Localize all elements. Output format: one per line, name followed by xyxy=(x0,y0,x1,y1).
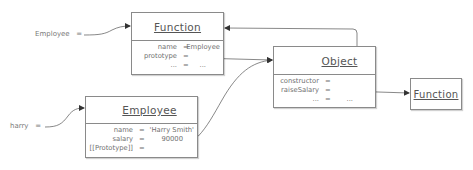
function-raisesalary-box[interactable]: Function xyxy=(410,78,462,110)
row-op: = xyxy=(183,52,189,60)
row-key: salary xyxy=(112,135,133,143)
row-op: = xyxy=(325,77,331,85)
row-value: 'Harry Smith' xyxy=(150,126,194,134)
row-op: = xyxy=(139,135,145,143)
variable-harry: harry = xyxy=(10,122,41,130)
employee-harry-box[interactable]: Employee name = 'Harry Smith' salary = 9… xyxy=(85,96,198,158)
row-key: [[Prototype]] xyxy=(90,144,133,152)
connector-arrows xyxy=(0,0,473,170)
box-title: Function xyxy=(154,21,201,33)
assign-op: = xyxy=(76,30,82,38)
box-title: Employee xyxy=(122,104,176,116)
box-rows: name = Employee prototype = ... = ... xyxy=(132,41,223,70)
row-prototype: prototype = xyxy=(132,52,223,61)
row-key: ... xyxy=(171,61,177,69)
box-header: Object xyxy=(274,47,375,75)
row-op: = xyxy=(325,86,331,94)
box-header: Employee xyxy=(86,97,197,124)
box-header: Function xyxy=(411,79,461,109)
row-key: raiseSalary xyxy=(281,86,319,94)
row-key: ... xyxy=(313,95,319,103)
row-key: name xyxy=(158,43,177,51)
row-op: = xyxy=(139,126,145,134)
variable-name: Employee xyxy=(35,30,70,38)
function-employee-box[interactable]: Function name = Employee prototype = ...… xyxy=(131,12,224,75)
row-prototype-link: [[Prototype]] = xyxy=(86,144,197,153)
box-rows: constructor = raiseSalary = ... = ... xyxy=(274,75,375,104)
variable-employee: Employee = xyxy=(35,30,82,38)
row-value: ... xyxy=(347,95,353,103)
row-ellipsis: ... = ... xyxy=(132,61,223,70)
row-name: name = Employee xyxy=(132,43,223,52)
arrow-harry-to-employee xyxy=(45,108,84,127)
row-op: = xyxy=(139,144,145,152)
row-op: = xyxy=(183,61,189,69)
row-op: = xyxy=(325,95,331,103)
row-ellipsis: ... = ... xyxy=(274,95,375,104)
box-header: Function xyxy=(132,13,223,41)
object-prototype-box[interactable]: Object constructor = raiseSalary = ... =… xyxy=(273,46,376,108)
box-title: Function xyxy=(414,89,459,100)
row-name: name = 'Harry Smith' xyxy=(86,126,197,135)
arrow-employee-to-function xyxy=(84,26,130,35)
variable-name: harry xyxy=(10,122,29,130)
row-value: Employee xyxy=(186,43,220,51)
row-value: 90000 xyxy=(161,135,183,143)
box-title: Object xyxy=(322,55,358,67)
box-rows: name = 'Harry Smith' salary = 90000 [[Pr… xyxy=(86,124,197,153)
row-key: prototype xyxy=(144,52,177,60)
row-key: name xyxy=(114,126,133,134)
row-value: ... xyxy=(200,61,206,69)
row-key: constructor xyxy=(280,77,319,85)
row-salary: salary = 90000 xyxy=(86,135,197,144)
row-raisesalary: raiseSalary = xyxy=(274,86,375,95)
row-constructor: constructor = xyxy=(274,77,375,86)
assign-op: = xyxy=(35,122,41,130)
